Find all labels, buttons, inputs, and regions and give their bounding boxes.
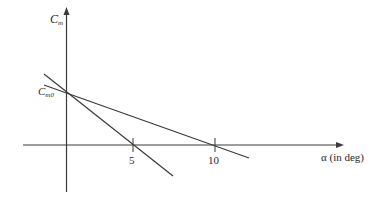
cm-alpha-diagram <box>0 0 382 203</box>
tick-label-10: 10 <box>208 155 219 166</box>
y-axis-label-sub: m <box>58 19 63 27</box>
y-axis-arrow-icon <box>64 7 70 15</box>
x-axis-label: α (in deg) <box>321 152 364 163</box>
y-axis-label: Cm <box>50 13 63 27</box>
x-axis-arrow-icon <box>336 142 344 148</box>
shallow-line <box>44 85 249 158</box>
intercept-label: Cm0 <box>38 86 54 99</box>
tick-label-5: 5 <box>129 155 135 166</box>
steep-line <box>44 74 173 176</box>
y-axis-label-main: C <box>50 12 58 26</box>
intercept-label-sub: m0 <box>45 91 54 99</box>
